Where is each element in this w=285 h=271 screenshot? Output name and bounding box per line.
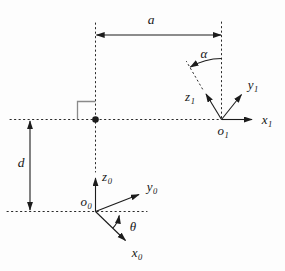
frame1-axes <box>206 94 252 120</box>
x0-sub: 0 <box>138 251 142 261</box>
link-length-label: a <box>148 13 155 27</box>
o1-origin-label: o1 <box>217 124 228 139</box>
z1-sub: 1 <box>191 95 195 105</box>
y1-base: y <box>248 77 254 92</box>
dh-parameters-figure: a α d θ x1 y1 z1 o1 z0 y0 x0 o0 <box>0 0 285 271</box>
z1-axis-arrow <box>206 94 222 120</box>
z1-axis-extension-line <box>187 62 203 90</box>
z1-axis-label: z1 <box>185 90 195 105</box>
joint-angle-label: θ <box>130 220 136 233</box>
o0-origin-label: o0 <box>80 195 91 210</box>
y1-sub: 1 <box>254 83 258 93</box>
link-twist-label: α <box>201 47 208 60</box>
o1-sub: 1 <box>224 129 228 139</box>
theta-angle-arc <box>113 216 119 229</box>
x0-axis-arrow <box>96 212 126 241</box>
x1-base: x <box>262 112 268 127</box>
y1-axis-label: y1 <box>248 78 259 93</box>
y0-axis-arrow <box>96 195 140 212</box>
z0-axis-label: z0 <box>102 170 112 185</box>
y0-base: y <box>147 179 153 194</box>
y1-axis-arrow <box>222 95 242 120</box>
o1-base: o <box>217 123 224 138</box>
x0-axis-label: x0 <box>132 246 143 261</box>
construction-lines <box>7 22 222 212</box>
z0-sub: 0 <box>108 175 112 185</box>
z1-base: z <box>185 89 190 104</box>
diagram-canvas <box>0 0 285 271</box>
y0-axis-label: y0 <box>147 180 158 195</box>
joint-axis-dot <box>92 116 99 123</box>
z0-base: z <box>102 169 107 184</box>
link-offset-label: d <box>18 156 25 170</box>
x1-axis-label: x1 <box>262 113 273 128</box>
x1-sub: 1 <box>268 118 272 128</box>
o0-sub: 0 <box>87 200 91 210</box>
x0-base: x <box>132 245 138 260</box>
y0-sub: 0 <box>153 185 157 195</box>
o0-base: o <box>80 194 87 209</box>
right-angle-marker <box>78 102 96 120</box>
